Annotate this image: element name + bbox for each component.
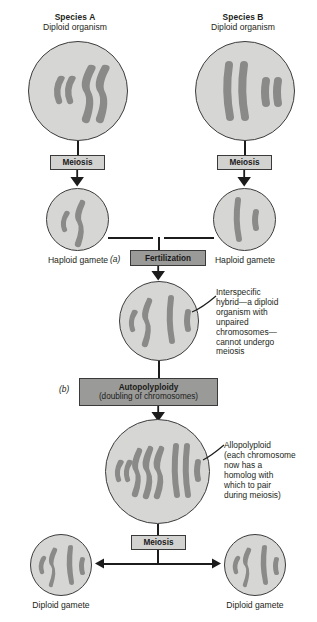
connector-meiosis-bottom-left-arm xyxy=(104,563,158,565)
connector-meiosis-bottom-right-arm xyxy=(158,563,212,565)
species-a-title: Species A xyxy=(20,12,130,22)
allopolyploid-annotation-line-5: during meiosis) xyxy=(224,491,316,501)
meiosis-box-right[interactable]: Meiosis xyxy=(217,155,272,170)
connector-b-to-meiosis xyxy=(244,141,246,155)
connector-right-gamete-to-fert xyxy=(164,237,214,239)
autopolyploidy-subtitle: (doubling of chromosomes) xyxy=(99,392,198,401)
meiosis-box-left[interactable]: Meiosis xyxy=(50,155,105,170)
marker-b: (b) xyxy=(59,384,69,394)
allopolyploid-annotation: Allopolyploid (each chromosome now has a… xyxy=(224,441,316,500)
diploid-gamete-left-label: Diploid gamete xyxy=(11,600,111,610)
allopolyploid-chromosomes xyxy=(105,419,210,524)
meiosis-bottom-label: Meiosis xyxy=(143,538,173,547)
species-a-subtitle: Diploid organism xyxy=(20,22,130,32)
connector-meiosis-bottom-stem xyxy=(157,550,159,564)
diploid-gamete-right-label: Diploid gamete xyxy=(205,600,305,610)
fertilization-box[interactable]: Fertilization xyxy=(130,250,206,266)
arrow-down-left-meiosis xyxy=(70,170,86,186)
arrow-down-fertilization xyxy=(151,266,167,280)
connector-a-to-meiosis xyxy=(77,141,79,155)
haploid-gamete-left-chromosomes xyxy=(46,188,109,251)
hybrid-annotation: Interspecific hybrid—a diploid organism … xyxy=(216,288,314,357)
autopolyploidy-title: Autopolyploidy xyxy=(119,383,179,392)
autopolyploidy-box[interactable]: Autopolyploidy (doubling of chromosomes) xyxy=(79,378,218,406)
arrow-left-diploid-gamete xyxy=(95,556,109,571)
arrow-down-right-meiosis xyxy=(237,170,253,186)
species-b-title: Species B xyxy=(188,12,298,22)
meiosis-box-bottom[interactable]: Meiosis xyxy=(131,535,186,550)
diploid-gamete-left-chromosomes xyxy=(30,534,92,596)
species-a-chromosomes xyxy=(28,41,128,141)
connector-junction-to-fert xyxy=(158,237,160,250)
species-b-subtitle: Diploid organism xyxy=(188,22,298,32)
connector-hybrid-to-autopolyploidy xyxy=(158,361,160,378)
leader-line-hybrid xyxy=(192,292,218,318)
haploid-gamete-right-label: Haploid gamete xyxy=(195,255,295,265)
marker-a: (a) xyxy=(110,254,120,264)
interspecific-hybrid-chromosomes xyxy=(119,281,199,361)
haploid-gamete-right-chromosomes xyxy=(213,188,276,251)
arrow-right-diploid-gamete xyxy=(208,556,222,571)
species-b-chromosomes xyxy=(195,41,295,141)
diagram-canvas: Species A Diploid organism Species B Dip… xyxy=(0,0,317,622)
connector-left-gamete-to-fert xyxy=(108,237,153,239)
meiosis-left-label: Meiosis xyxy=(62,158,92,167)
hybrid-annotation-line-6: meiosis xyxy=(216,347,314,357)
fertilization-label: Fertilization xyxy=(145,254,191,263)
meiosis-right-label: Meiosis xyxy=(229,158,259,167)
diploid-gamete-right-chromosomes xyxy=(224,534,286,596)
